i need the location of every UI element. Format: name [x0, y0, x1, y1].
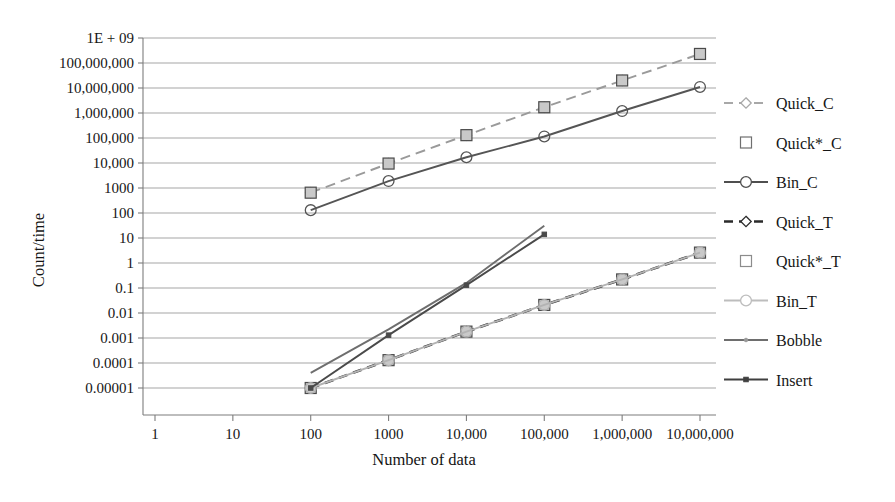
data-point-marker [542, 232, 547, 237]
data-point-marker [386, 333, 391, 338]
legend-label: Insert [776, 372, 813, 389]
y-axis-tick-label: 100,000 [85, 130, 134, 146]
y-axis-tick-label: 10,000,000 [67, 80, 135, 96]
data-point-marker [464, 283, 469, 288]
y-axis-tick-label: 0.001 [100, 330, 134, 346]
x-axis-tick-label: 1 [151, 426, 159, 442]
legend-label: Bin_C [776, 174, 818, 191]
legend-label: Quick_C [776, 95, 834, 112]
legend-label: Quick_T [776, 214, 833, 231]
y-axis-tick-label: 0.0001 [93, 355, 134, 371]
x-axis-tick-label: 10,000,000 [666, 426, 734, 442]
y-axis-tick-label: 10 [119, 230, 134, 246]
y-axis-tick-label: 1,000,000 [74, 105, 134, 121]
data-point-marker [617, 75, 628, 86]
data-point-marker [383, 158, 394, 169]
x-axis-title: Number of data [372, 450, 476, 469]
legend-marker-circle [741, 295, 752, 306]
legend-label: Bin_T [776, 293, 817, 310]
y-axis-tick-label: 10,000 [93, 155, 134, 171]
legend-label: Quick*_C [776, 135, 842, 152]
chart-figure: 1E + 09100,000,00010,000,0001,000,000100… [0, 0, 895, 502]
y-axis-tick-label: 0.01 [108, 305, 134, 321]
y-axis-tick-label: 0.00001 [85, 380, 134, 396]
x-axis-tick-label: 100,000 [520, 426, 569, 442]
data-point-marker [461, 130, 472, 141]
x-axis-tick-label: 1,000,000 [592, 426, 652, 442]
legend-marker-circle [741, 177, 752, 188]
x-axis-tick-label: 10,000 [446, 426, 487, 442]
y-axis-tick-label: 1E + 09 [86, 30, 134, 46]
legend-label: Bobble [776, 332, 822, 349]
legend-label: Quick*_T [776, 253, 841, 270]
y-axis-title: Count/time [29, 213, 48, 287]
data-point-marker [695, 48, 706, 59]
data-point-marker [539, 102, 550, 113]
legend-marker-small-square [744, 377, 749, 382]
y-axis-tick-label: 0.1 [115, 280, 134, 296]
legend-marker-tiny [744, 338, 748, 342]
data-point-marker [308, 386, 313, 391]
data-point-marker [305, 187, 316, 198]
y-axis-tick-label: 1 [127, 255, 135, 271]
x-axis-tick-label: 1000 [374, 426, 404, 442]
x-axis-tick-label: 100 [299, 426, 322, 442]
chart-canvas: 1E + 09100,000,00010,000,0001,000,000100… [0, 0, 895, 502]
y-axis-tick-label: 100 [112, 205, 135, 221]
y-axis-tick-label: 1000 [104, 180, 134, 196]
x-axis-tick-label: 10 [225, 426, 240, 442]
y-axis-tick-label: 100,000,000 [59, 55, 134, 71]
